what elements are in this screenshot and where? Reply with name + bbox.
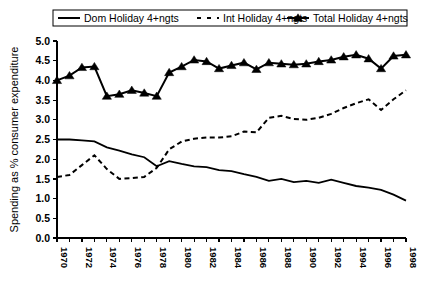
y-axis-tick-label: 3.0 xyxy=(35,113,50,125)
x-axis-tick-label: 1998 xyxy=(408,247,419,268)
x-axis-tick-label: 1976 xyxy=(133,247,144,268)
x-axis-tick-label: 1978 xyxy=(158,247,169,268)
data-point-marker xyxy=(252,65,261,72)
y-axis-tick-label: 2.0 xyxy=(35,153,50,165)
x-axis-tick-label: 1994 xyxy=(358,247,369,269)
chart-container: 0.00.51.01.52.02.53.03.54.04.55.0Spendin… xyxy=(0,0,431,288)
x-axis-tick-label: 1996 xyxy=(383,247,394,268)
y-axis-tick-label: 5.0 xyxy=(35,35,50,47)
legend-label: Total Holiday 4+ngts xyxy=(313,12,408,24)
x-axis-tick-label: 1990 xyxy=(308,247,319,268)
data-point-marker xyxy=(127,86,136,93)
y-axis-title: Spending as % consumer expenditure xyxy=(8,47,20,233)
y-axis-tick-label: 0.0 xyxy=(35,232,50,244)
series-line-int-holiday-4-ngts xyxy=(57,90,406,179)
x-axis-tick-label: 1988 xyxy=(283,247,294,268)
data-point-marker xyxy=(239,58,248,65)
x-axis-tick-label: 1984 xyxy=(233,247,244,269)
x-axis-tick-label: 1970 xyxy=(59,247,70,268)
y-axis-tick-label: 3.5 xyxy=(35,94,50,106)
legend-label: Dom Holiday 4+ngts xyxy=(84,12,179,24)
y-axis-tick-label: 0.5 xyxy=(35,212,50,224)
series-line-dom-holiday-4-ngts xyxy=(57,140,406,201)
y-axis-tick-label: 2.5 xyxy=(35,133,50,145)
y-axis-tick-label: 4.5 xyxy=(35,54,50,66)
y-axis-tick-label: 4.0 xyxy=(35,74,50,86)
data-point-marker xyxy=(352,51,361,58)
y-axis-tick-label: 1.5 xyxy=(35,173,50,185)
x-axis-tick-label: 1986 xyxy=(258,247,269,268)
x-axis-tick-label: 1992 xyxy=(333,247,344,268)
line-chart: 0.00.51.01.52.02.53.03.54.04.55.0Spendin… xyxy=(0,0,431,288)
data-point-marker xyxy=(177,62,186,69)
chart-axes xyxy=(57,41,406,238)
x-axis-tick-label: 1982 xyxy=(208,247,219,268)
x-axis-tick-label: 1974 xyxy=(108,247,119,269)
x-axis-tick-label: 1972 xyxy=(84,247,95,268)
y-axis-tick-label: 1.0 xyxy=(35,192,50,204)
x-axis-tick-label: 1980 xyxy=(183,247,194,268)
